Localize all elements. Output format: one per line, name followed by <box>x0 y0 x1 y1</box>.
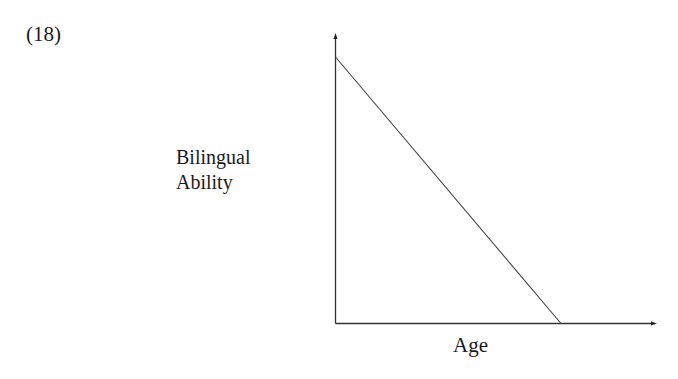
y-axis-arrow-icon <box>334 33 338 39</box>
y-axis <box>334 33 338 324</box>
x-axis-arrow-icon <box>651 322 657 326</box>
plot-area <box>0 0 678 379</box>
x-axis <box>336 322 658 326</box>
decline-line <box>336 57 562 324</box>
